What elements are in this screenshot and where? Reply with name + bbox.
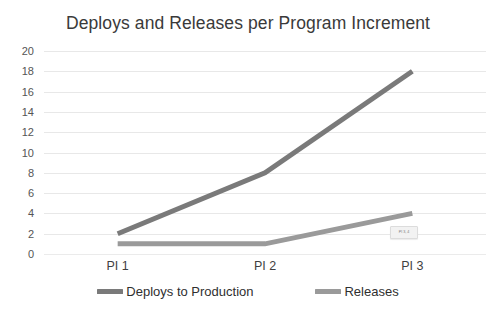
y-axis-tick-16: 16: [22, 86, 34, 98]
y-axis: 20181614121086420: [0, 51, 40, 254]
legend-swatch-deploys-to-production: [97, 289, 123, 294]
x-axis: PI 1PI 2PI 3: [44, 259, 486, 279]
y-axis-tick-18: 18: [22, 65, 34, 77]
legend-label-deploys-to-production: Deploys to Production: [126, 284, 253, 299]
chart-container: Deploys and Releases per Program Increme…: [0, 0, 496, 324]
y-axis-tick-6: 6: [28, 187, 34, 199]
legend-item-releases[interactable]: Releases: [315, 284, 398, 299]
y-axis-tick-14: 14: [22, 106, 34, 118]
x-axis-tick-pi-3: PI 3: [401, 259, 423, 273]
y-axis-tick-8: 8: [28, 167, 34, 179]
x-axis-tick-pi-1: PI 1: [107, 259, 129, 273]
y-axis-tick-4: 4: [28, 207, 34, 219]
y-axis-tick-20: 20: [22, 45, 34, 57]
series-lines: [44, 51, 486, 254]
series-line-deploys-to-production: [118, 71, 413, 233]
legend-swatch-releases: [315, 289, 341, 294]
y-axis-tick-2: 2: [28, 228, 34, 240]
data-point-tooltip-label: PI 3, 4: [392, 227, 416, 236]
chart-title: Deploys and Releases per Program Increme…: [0, 13, 496, 34]
x-axis-tick-pi-2: PI 2: [254, 259, 276, 273]
plot-area: [44, 51, 486, 254]
y-axis-tick-10: 10: [22, 147, 34, 159]
gridline-0: [44, 254, 486, 255]
legend-item-deploys-to-production[interactable]: Deploys to Production: [97, 284, 253, 299]
data-point-tooltip: PI 3, 4: [390, 226, 418, 239]
y-axis-tick-12: 12: [22, 126, 34, 138]
legend-label-releases: Releases: [344, 284, 398, 299]
y-axis-tick-0: 0: [28, 248, 34, 260]
chart-legend: Deploys to ProductionReleases: [0, 284, 496, 299]
